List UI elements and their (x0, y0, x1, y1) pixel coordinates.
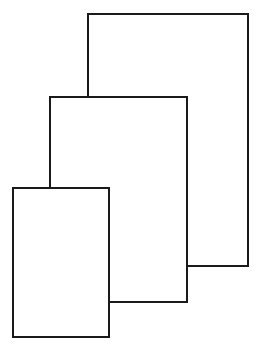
overlapping-rectangles-diagram (0, 0, 259, 351)
small-rectangle[interactable] (13, 188, 109, 337)
figure-canvas (0, 0, 259, 351)
small-rectangle-face (13, 188, 109, 337)
